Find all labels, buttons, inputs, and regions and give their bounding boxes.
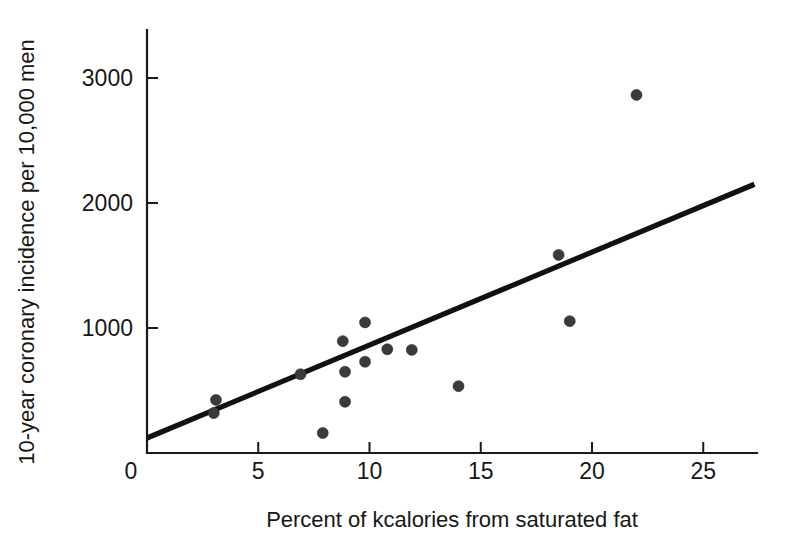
data-point	[564, 316, 575, 327]
y-axis-title: 10-year coronary incidence per 10,000 me…	[14, 39, 39, 465]
x-axis-ticks: 0510152025	[125, 442, 716, 484]
y-tick-label: 2000	[82, 190, 133, 216]
x-tick-label: 10	[357, 458, 383, 484]
data-point	[360, 317, 371, 328]
x-tick-label: 25	[690, 458, 716, 484]
data-point	[337, 336, 348, 347]
data-point	[208, 408, 219, 419]
x-tick-label: 0	[125, 458, 138, 484]
data-point	[295, 369, 306, 380]
data-point	[340, 366, 351, 377]
data-point	[406, 344, 417, 355]
data-point	[340, 396, 351, 407]
x-tick-label: 15	[468, 458, 494, 484]
data-point	[453, 381, 464, 392]
x-axis-title: Percent of kcalories from saturated fat	[266, 507, 638, 532]
data-point	[553, 249, 564, 260]
x-tick-label: 5	[252, 458, 265, 484]
data-point	[360, 356, 371, 367]
y-tick-label: 3000	[82, 65, 133, 91]
data-point	[631, 89, 642, 100]
chart-figure: 100020003000 0510152025 Percent of kcalo…	[0, 0, 799, 547]
data-point	[317, 428, 328, 439]
data-point	[382, 344, 393, 355]
trend-line	[147, 184, 754, 438]
x-tick-label: 20	[579, 458, 605, 484]
scatter-plot: 100020003000 0510152025 Percent of kcalo…	[0, 0, 799, 547]
y-tick-label: 1000	[82, 315, 133, 341]
data-point	[210, 394, 221, 405]
